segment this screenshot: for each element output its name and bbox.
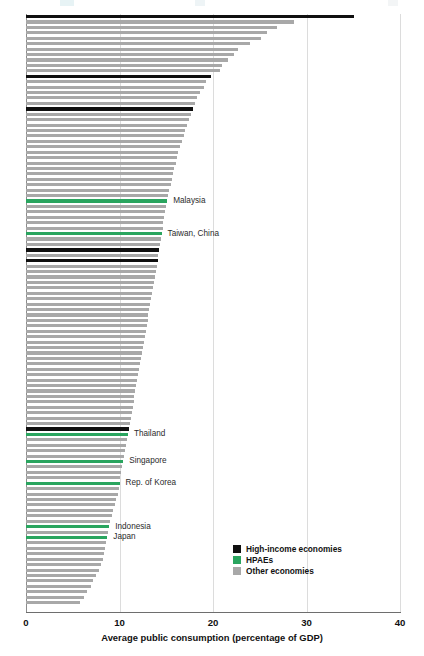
x-tick-label-30: 30 bbox=[301, 617, 312, 628]
legend-label: HPAEs bbox=[246, 556, 273, 565]
bar-other bbox=[26, 465, 122, 468]
bar-other bbox=[26, 417, 131, 420]
bar-other bbox=[26, 53, 234, 56]
bar-other bbox=[26, 64, 222, 67]
bar-other bbox=[26, 243, 160, 246]
legend-item: Other economies bbox=[233, 566, 342, 577]
bar-other bbox=[26, 58, 228, 61]
bar-other bbox=[26, 210, 165, 213]
bar-other bbox=[26, 449, 125, 452]
bar-other bbox=[26, 156, 177, 159]
bar-other bbox=[26, 86, 204, 89]
bar-other bbox=[26, 574, 96, 577]
bar-other bbox=[26, 563, 101, 566]
bar-other bbox=[26, 91, 200, 94]
bar-other bbox=[26, 265, 157, 268]
bar-other bbox=[26, 151, 178, 154]
bar-other bbox=[26, 471, 121, 474]
legend-label: High-income economies bbox=[246, 545, 342, 554]
bar-other bbox=[26, 102, 195, 105]
bar-other bbox=[26, 183, 171, 186]
bar-other bbox=[26, 362, 140, 365]
bar-other bbox=[26, 297, 151, 300]
bar-hpae bbox=[26, 536, 107, 539]
bar-other bbox=[26, 389, 135, 392]
bar-other bbox=[26, 341, 144, 344]
bar-other bbox=[26, 167, 174, 170]
bar-other bbox=[26, 113, 191, 116]
bar-other bbox=[26, 335, 145, 338]
bar-other bbox=[26, 124, 187, 127]
legend-item: HPAEs bbox=[233, 555, 342, 566]
bar-other bbox=[26, 373, 138, 376]
legend: High-income economiesHPAEsOther economie… bbox=[233, 544, 342, 577]
bar-other bbox=[26, 368, 139, 371]
x-tick-label-10: 10 bbox=[114, 617, 125, 628]
bar-other bbox=[26, 552, 104, 555]
bar-hpae bbox=[26, 460, 123, 463]
bar-hpae bbox=[26, 482, 120, 485]
bar-other bbox=[26, 330, 146, 333]
bar-other bbox=[26, 134, 184, 137]
bar-other bbox=[26, 547, 105, 550]
bar-other bbox=[26, 286, 153, 289]
x-tick-label-40: 40 bbox=[395, 617, 406, 628]
bar-other bbox=[26, 503, 115, 506]
bar-other bbox=[26, 438, 127, 441]
bar-other bbox=[26, 292, 152, 295]
bar-other bbox=[26, 26, 277, 29]
bar-high bbox=[26, 248, 159, 251]
bar-other bbox=[26, 455, 124, 458]
top-edge-artifact bbox=[195, 0, 205, 6]
bar-other bbox=[26, 596, 84, 599]
bar-high bbox=[26, 107, 193, 110]
bar-other bbox=[26, 357, 141, 360]
x-axis-title: Average public consumption (percentage o… bbox=[0, 632, 424, 643]
x-tick-label-20: 20 bbox=[208, 617, 219, 628]
bar-other bbox=[26, 275, 155, 278]
bar-other bbox=[26, 189, 169, 192]
bar-other bbox=[26, 579, 93, 582]
bar-high bbox=[26, 259, 158, 262]
bar-other bbox=[26, 129, 185, 132]
bar-other bbox=[26, 96, 197, 99]
chart-container: MalaysiaTaiwan, ChinaThailandSingaporeRe… bbox=[0, 0, 424, 656]
bar-row bbox=[26, 600, 400, 606]
bar-hpae bbox=[26, 433, 128, 436]
bar-other bbox=[26, 520, 110, 523]
bar-other bbox=[26, 313, 148, 316]
bar-other bbox=[26, 178, 172, 181]
bar-other bbox=[26, 531, 108, 534]
bar-other bbox=[26, 172, 173, 175]
top-edge-artifact bbox=[388, 0, 398, 6]
bar-other bbox=[26, 140, 182, 143]
bar-other bbox=[26, 20, 294, 23]
x-tick-label-0: 0 bbox=[23, 617, 28, 628]
bar-hpae bbox=[26, 199, 167, 202]
bar-other bbox=[26, 422, 130, 425]
bar-other bbox=[26, 194, 168, 197]
bar-other bbox=[26, 509, 113, 512]
bar-other bbox=[26, 514, 112, 517]
gridline-40 bbox=[400, 14, 401, 612]
bar-other bbox=[26, 37, 261, 40]
bar-other bbox=[26, 308, 149, 311]
bar-other bbox=[26, 395, 134, 398]
bar-other bbox=[26, 541, 106, 544]
bar-other bbox=[26, 379, 137, 382]
bar-other bbox=[26, 31, 267, 34]
bar-other bbox=[26, 237, 161, 240]
bar-other bbox=[26, 216, 164, 219]
bar-other bbox=[26, 384, 136, 387]
bar-other bbox=[26, 254, 158, 257]
legend-swatch bbox=[233, 567, 241, 575]
bar-high bbox=[26, 75, 211, 78]
bar-other bbox=[26, 558, 103, 561]
bar-other bbox=[26, 42, 250, 45]
bar-other bbox=[26, 498, 116, 501]
bar-other bbox=[26, 303, 150, 306]
bar-other bbox=[26, 406, 133, 409]
bar-other bbox=[26, 48, 238, 51]
bar-other bbox=[26, 601, 80, 604]
plot-area: MalaysiaTaiwan, ChinaThailandSingaporeRe… bbox=[26, 14, 400, 612]
